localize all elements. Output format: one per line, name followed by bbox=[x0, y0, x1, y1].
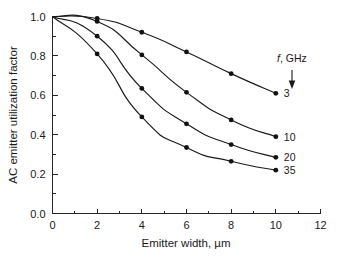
data-point bbox=[229, 142, 234, 147]
data-point bbox=[229, 118, 234, 123]
data-point bbox=[139, 115, 144, 120]
data-point bbox=[95, 19, 100, 24]
x-tick-label: 8 bbox=[228, 219, 234, 231]
data-point bbox=[184, 121, 189, 126]
data-point bbox=[273, 168, 278, 173]
legend-title: f, GHz bbox=[277, 52, 307, 64]
data-point bbox=[95, 34, 100, 39]
y-tick-label: 0.0 bbox=[30, 208, 45, 220]
data-point bbox=[273, 134, 278, 139]
x-axis-title: Emitter width, µm bbox=[141, 237, 230, 249]
data-point bbox=[184, 50, 189, 55]
line-chart-canvas: 024681012 0.00.20.40.60.81.0 3102035 f, … bbox=[0, 0, 341, 260]
y-tick-label: 0.2 bbox=[30, 168, 45, 180]
series-label-10: 10 bbox=[284, 131, 296, 143]
data-point bbox=[139, 53, 144, 58]
x-tick-label: 12 bbox=[314, 219, 326, 231]
y-axis-title: AC emitter utilization factor bbox=[7, 46, 19, 184]
y-tick-label: 1.0 bbox=[30, 11, 45, 23]
x-tick-label: 4 bbox=[139, 219, 145, 231]
x-tick-label: 2 bbox=[94, 219, 100, 231]
data-point bbox=[184, 90, 189, 95]
data-point bbox=[139, 30, 144, 35]
y-tick-label: 0.4 bbox=[30, 129, 45, 141]
y-tick-label: 0.6 bbox=[30, 89, 45, 101]
data-point bbox=[229, 71, 234, 76]
data-point bbox=[139, 86, 144, 91]
data-point bbox=[273, 155, 278, 160]
data-point bbox=[184, 145, 189, 150]
y-tick-label: 0.8 bbox=[30, 50, 45, 62]
x-tick-label: 6 bbox=[183, 219, 189, 231]
data-point bbox=[273, 91, 278, 96]
x-tick-label: 0 bbox=[49, 219, 55, 231]
x-tick-label: 10 bbox=[270, 219, 282, 231]
data-point bbox=[229, 159, 234, 164]
series-label-3: 3 bbox=[284, 87, 290, 99]
data-point bbox=[95, 52, 100, 57]
series-label-35: 35 bbox=[284, 164, 296, 176]
chart-figure: 024681012 0.00.20.40.60.81.0 3102035 f, … bbox=[0, 0, 341, 260]
series-label-20: 20 bbox=[284, 151, 296, 163]
